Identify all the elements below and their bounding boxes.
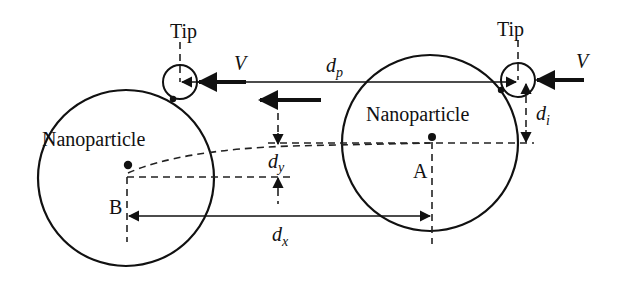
nanoparticle-b: Nanoparticle B	[38, 90, 214, 266]
particle-b-center-dot	[124, 161, 132, 169]
tip-nanoparticle-manipulation-diagram: Nanoparticle B Nanoparticle A Tip Tip	[0, 0, 620, 285]
dimension-d-y: dy	[268, 113, 285, 204]
d-x-label: dx	[272, 223, 289, 249]
dimension-d-x: dx	[129, 216, 430, 249]
dimension-d-p: dp	[182, 54, 516, 82]
tip-left-contact-dot	[170, 96, 176, 102]
d-i-label: di	[536, 102, 550, 128]
point-a-label: A	[413, 160, 428, 182]
particle-a-center-dot	[428, 133, 436, 141]
d-y-label: dy	[268, 150, 285, 175]
velocity-right-arrow: V	[537, 50, 591, 80]
tip-left: Tip	[163, 20, 197, 102]
nanoparticle-b-outline	[38, 90, 214, 266]
point-b-label: B	[109, 196, 122, 218]
velocity-left-label: V	[234, 52, 249, 74]
d-p-label: dp	[326, 54, 343, 80]
tip-left-label: Tip	[170, 20, 197, 43]
tip-right: Tip	[497, 18, 535, 97]
velocity-right-label: V	[576, 50, 591, 72]
velocity-left-arrow: V	[199, 52, 249, 82]
tip-right-contact-dot	[498, 87, 504, 93]
tip-right-label: Tip	[497, 18, 524, 41]
nanoparticle-a-label: Nanoparticle	[366, 103, 469, 126]
nanoparticle-b-label: Nanoparticle	[42, 128, 145, 151]
